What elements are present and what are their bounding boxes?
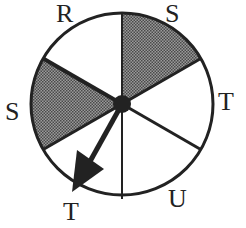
- sector-s-left: [31, 59, 122, 150]
- label-bottom-right: U: [168, 184, 187, 213]
- divider-lower-right: [122, 104, 201, 150]
- label-top-left: R: [56, 0, 74, 28]
- label-bottom-left: T: [63, 197, 79, 226]
- label-top-right: S: [165, 0, 179, 28]
- label-right: T: [218, 87, 234, 116]
- spinner-hub: [113, 95, 131, 113]
- sector-s-top-right: [122, 13, 201, 104]
- label-left: S: [5, 97, 19, 126]
- spinner-diagram: R S T U T S: [0, 0, 246, 228]
